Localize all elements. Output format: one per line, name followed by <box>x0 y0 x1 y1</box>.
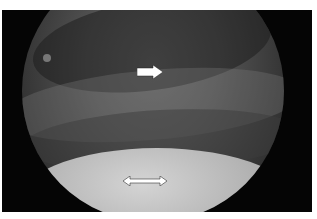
arrow-right-icon <box>137 65 163 79</box>
double-arrow-icon <box>123 176 167 186</box>
image-frame <box>2 10 312 212</box>
light-reflection <box>43 54 51 62</box>
